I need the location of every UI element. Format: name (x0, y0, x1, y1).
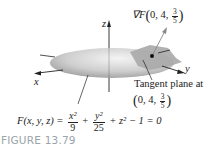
tangent-point-label: (0, 4, 35) (133, 93, 171, 109)
gradient-arrow (162, 27, 167, 34)
y-axis-label: y (185, 64, 190, 75)
tangent-point (150, 54, 154, 58)
x-axis-arrow (34, 71, 41, 76)
z-axis-arrow (107, 20, 111, 27)
tangent-plane-label: Tangent plane at (134, 79, 203, 90)
surface-equation: F(x, y, z) = x²9 + y²25 + z² − 1 = 0 (17, 111, 161, 133)
y-axis-arrow (177, 70, 185, 75)
figure-caption: FIGURE 13.79 (1, 134, 76, 146)
gradient-label: ∇F(0, 4, 35) (132, 8, 184, 24)
x-axis (38, 70, 63, 73)
x-axis-label: x (34, 77, 39, 88)
z-axis-label: z (102, 19, 106, 30)
equation-leader (78, 75, 88, 104)
